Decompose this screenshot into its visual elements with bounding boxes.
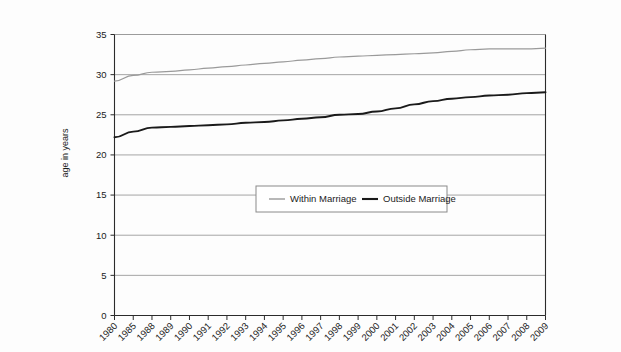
y-axis-title-group: age in years bbox=[60, 128, 70, 178]
x-tick-label-1998: 1998 bbox=[322, 320, 345, 343]
x-tick-label-1995: 1995 bbox=[265, 320, 288, 343]
legend-group[interactable]: Within MarriageOutside Marriage bbox=[256, 186, 456, 212]
y-tick-label-20: 20 bbox=[96, 149, 107, 160]
x-tick-label-1999: 1999 bbox=[340, 320, 363, 343]
x-tick-label-1993: 1993 bbox=[228, 320, 251, 343]
series-line-within-marriage bbox=[115, 48, 546, 81]
x-tick-label-1989: 1989 bbox=[153, 320, 176, 343]
x-tick-label-2003: 2003 bbox=[415, 320, 438, 343]
x-tick-label-2001: 2001 bbox=[378, 320, 401, 343]
y-axis-title: age in years bbox=[60, 128, 70, 178]
axes-group bbox=[111, 35, 546, 316]
x-tick-marks-group bbox=[115, 316, 546, 321]
x-tick-label-1985: 1985 bbox=[115, 320, 138, 343]
x-tick-label-1992: 1992 bbox=[209, 320, 232, 343]
x-tick-label-2006: 2006 bbox=[471, 320, 494, 343]
x-tick-label-2000: 2000 bbox=[359, 320, 382, 343]
y-tick-labels-group: 05101520253035 bbox=[96, 29, 107, 321]
y-tick-label-25: 25 bbox=[96, 109, 107, 120]
x-tick-label-1994: 1994 bbox=[247, 320, 270, 343]
x-tick-label-1996: 1996 bbox=[284, 320, 307, 343]
x-tick-label-1997: 1997 bbox=[303, 320, 326, 343]
line-chart: 05101520253035 1980198519881989199019911… bbox=[0, 0, 621, 352]
y-tick-label-35: 35 bbox=[96, 29, 107, 40]
x-tick-label-1980: 1980 bbox=[97, 320, 120, 343]
y-tick-label-0: 0 bbox=[101, 310, 106, 321]
y-tick-label-5: 5 bbox=[101, 270, 106, 281]
x-tick-label-2002: 2002 bbox=[397, 320, 420, 343]
x-tick-label-2004: 2004 bbox=[434, 320, 457, 343]
y-tick-label-10: 10 bbox=[96, 230, 107, 241]
chart-canvas: 05101520253035 1980198519881989199019911… bbox=[0, 0, 621, 352]
x-tick-label-1990: 1990 bbox=[172, 320, 195, 343]
x-tick-label-2008: 2008 bbox=[509, 320, 532, 343]
x-tick-label-2005: 2005 bbox=[453, 320, 476, 343]
x-tick-label-2007: 2007 bbox=[490, 320, 513, 343]
x-tick-label-2009: 2009 bbox=[528, 320, 551, 343]
legend-label-within-marriage[interactable]: Within Marriage bbox=[290, 193, 357, 204]
x-tick-label-1988: 1988 bbox=[134, 320, 157, 343]
data-series-group bbox=[115, 48, 546, 137]
legend-label-outside-marriage[interactable]: Outside Marriage bbox=[383, 193, 456, 204]
y-tick-label-15: 15 bbox=[96, 189, 107, 200]
x-tick-labels-group: 1980198519881989199019911992199319941995… bbox=[97, 320, 551, 343]
x-tick-label-1991: 1991 bbox=[190, 320, 213, 343]
y-tick-label-30: 30 bbox=[96, 69, 107, 80]
